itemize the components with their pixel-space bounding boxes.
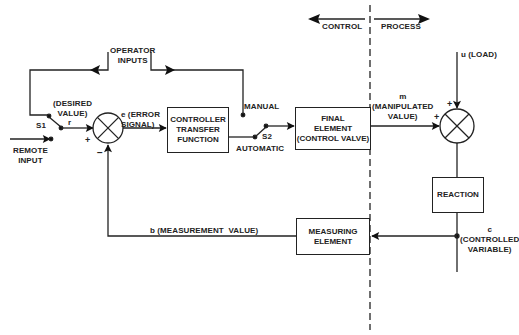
- s1-label: S1: [36, 121, 46, 131]
- controller-label: CONTROLLER TRANSFER FUNCTION: [170, 115, 226, 145]
- manipulated-value-label: m (MANIPULATED VALUE): [372, 92, 434, 122]
- control-label: CONTROL: [322, 22, 362, 32]
- operator-inputs-label: OPERATOR INPUTS: [110, 46, 155, 66]
- controller-transfer-function-block: CONTROLLER TRANSFER FUNCTION: [167, 107, 229, 153]
- manual-label: MANUAL: [244, 102, 279, 112]
- operator-input-right-line: [151, 52, 243, 115]
- remote-input-label: REMOTE INPUT: [13, 146, 48, 166]
- reaction-block: REACTION: [432, 177, 484, 213]
- plus-sign-3: +: [434, 112, 439, 122]
- final-element-block: FINAL ELEMENT (CONTROL VALVE): [295, 107, 371, 150]
- automatic-label: AUTOMATIC: [236, 144, 284, 154]
- process-label: PROCESS: [381, 22, 421, 32]
- s2-label: S2: [262, 132, 272, 142]
- controlled-variable-label: c (CONTROLLED VARIABLE): [460, 225, 519, 255]
- desired-value-label: (DESIRED VALUE): [53, 99, 92, 119]
- measuring-element-label: MEASURING ELEMENT: [309, 227, 358, 247]
- final-element-label: FINAL ELEMENT (CONTROL VALVE): [297, 114, 369, 144]
- error-signal-label: e (ERROR SIGNAL): [121, 110, 160, 130]
- minus-sign-1: −: [97, 148, 103, 158]
- plus-sign-2: +: [447, 99, 452, 109]
- r-label: r: [68, 118, 71, 128]
- measuring-element-block: MEASURING ELEMENT: [296, 218, 370, 255]
- reaction-label: REACTION: [437, 190, 479, 200]
- plus-sign-1: +: [85, 135, 90, 145]
- load-label: u (LOAD): [461, 50, 497, 60]
- measurement-value-label: b (MEASUREMENT VALUE): [150, 226, 258, 236]
